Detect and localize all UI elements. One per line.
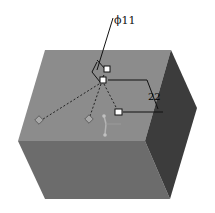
axis-point [103, 133, 107, 137]
square-handle-center[interactable] [100, 77, 106, 83]
square-handle-upper[interactable] [104, 66, 110, 72]
axis-y2 [105, 124, 106, 134]
axis-point [102, 114, 106, 118]
distance-label[interactable]: 22 [148, 92, 161, 102]
diameter-label[interactable]: ϕ11 [114, 15, 136, 26]
square-handle-lower[interactable] [115, 109, 122, 115]
front-face[interactable] [18, 141, 170, 199]
cad-viewport[interactable]: ϕ11 22 [0, 0, 215, 213]
box-model [0, 0, 215, 213]
